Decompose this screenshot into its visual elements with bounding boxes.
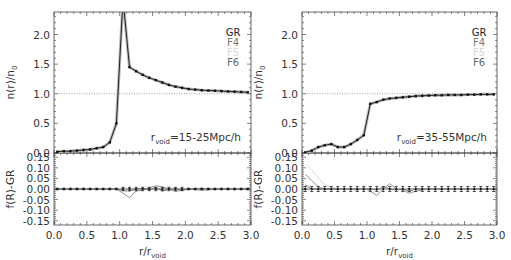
void-radius-annotation: rvoid=15-25Mpc/h: [151, 131, 241, 146]
xtick-label: 1.0: [359, 229, 376, 241]
xtick-label: 2.5: [210, 229, 227, 241]
series-F4: [305, 174, 494, 195]
xtick-label: 1.0: [111, 229, 128, 241]
xtick-label: 1.5: [391, 229, 408, 241]
top-ylabel: n(r)/n0: [4, 66, 19, 100]
xtick-label: 3.0: [243, 229, 260, 241]
series-F5: [305, 164, 494, 189]
bottom-ylabel: f(R)-GR: [4, 170, 16, 209]
top-ytick-label: 2.0: [281, 29, 298, 41]
bottom-ytick-label: -0.15: [271, 215, 298, 227]
xlabel: r/rvoid: [386, 245, 413, 260]
panel-left: 0.00.51.01.52.00.150.100.050.00-0.05-0.1…: [4, 0, 259, 260]
top-ytick-label: 1.5: [281, 58, 298, 70]
bottom-ytick-label: -0.15: [23, 215, 50, 227]
xtick-label: 0.0: [46, 229, 63, 241]
legend-F6: F6: [473, 57, 485, 68]
xtick-label: 3.0: [489, 229, 506, 241]
void-density-profile-figure: 0.00.51.01.52.00.150.100.050.00-0.05-0.1…: [0, 0, 511, 260]
series-F4: [57, 186, 247, 198]
series-GR: [57, 0, 247, 152]
xtick-label: 0.5: [78, 229, 95, 241]
xtick-label: 2.0: [424, 229, 441, 241]
top-ytick-label: 1.0: [33, 88, 50, 100]
xtick-label: 0.0: [294, 229, 311, 241]
top-ytick-label: 0.5: [281, 117, 298, 129]
panel-right: 0.00.51.01.52.00.150.100.050.00-0.05-0.1…: [252, 12, 505, 260]
xtick-label: 0.5: [326, 229, 343, 241]
top-ytick-label: 2.0: [33, 29, 50, 41]
xtick-label: 2.5: [456, 229, 473, 241]
top-ytick-label: 1.0: [281, 88, 298, 100]
xtick-label: 1.5: [144, 229, 161, 241]
fr-band: [305, 94, 494, 152]
legend-F6: F6: [227, 57, 239, 68]
top-ylabel: n(r)/n0: [252, 66, 267, 100]
bottom-ylabel: f(R)-GR: [252, 170, 264, 209]
void-radius-annotation: rvoid=35-55Mpc/h: [397, 131, 487, 146]
xtick-label: 2.0: [177, 229, 194, 241]
top-ytick-label: 0.5: [33, 117, 50, 129]
top-ytick-label: 1.5: [33, 58, 50, 70]
xlabel: r/rvoid: [139, 245, 166, 260]
fr-band: [57, 0, 247, 152]
